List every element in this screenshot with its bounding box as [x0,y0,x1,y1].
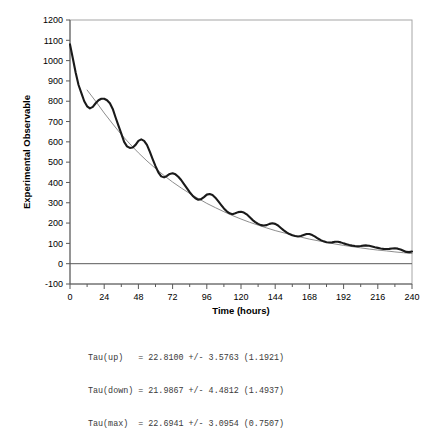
caption-line-tau-up: Tau(up) = 22.8100 +/- 3.5763 (1.1921) [88,353,388,364]
x-tick-label: 216 [370,292,385,302]
y-tick-label: 200 [48,218,63,228]
y-tick-label: 0 [58,259,63,269]
x-tick-label: 72 [168,292,178,302]
y-tick-label: -100 [45,279,63,289]
x-tick-label: 240 [404,292,419,302]
x-tick-label: 48 [133,292,143,302]
y-tick-label: 1100 [44,36,63,46]
y-tick-label: 300 [48,198,63,208]
x-axis-title: Time (hours) [212,305,269,316]
y-tick-label: 800 [48,96,63,106]
y-axis-ticks [66,20,70,284]
chart-plot: -100010020030040050060070080090010001100… [0,0,448,322]
x-tick-label: 96 [202,292,212,302]
x-tick-label: 0 [67,292,72,302]
y-tick-label: 1000 [43,56,63,66]
y-tick-label: 1200 [43,15,63,25]
x-axis-tick-labels: 024487296120144168192216240 [67,292,419,302]
y-axis-tick-labels: -100010020030040050060070080090010001100… [43,15,63,289]
y-tick-label: 400 [48,178,63,188]
x-tick-label: 192 [336,292,351,302]
y-tick-label: 100 [48,239,63,249]
x-tick-label: 168 [302,292,317,302]
y-tick-label: 600 [48,137,63,147]
caption-line-tau-max: Tau(max) = 22.6941 +/- 3.0954 (0.7507) [88,419,388,430]
plot-frame [70,20,412,284]
y-axis-title: Experimental Observable [21,95,32,209]
y-tick-label: 500 [48,157,63,167]
x-tick-label: 120 [233,292,248,302]
y-tick-label: 700 [48,117,63,127]
x-tick-label: 24 [99,292,109,302]
chart-svg: -100010020030040050060070080090010001100… [0,0,448,322]
caption-line-tau-down: Tau(down) = 21.9867 +/- 4.4812 (1.4937) [88,386,388,397]
fit-results-caption: Tau(up) = 22.8100 +/- 3.5763 (1.1921) Ta… [88,331,388,432]
y-tick-label: 900 [48,76,63,86]
x-tick-label: 144 [268,292,283,302]
